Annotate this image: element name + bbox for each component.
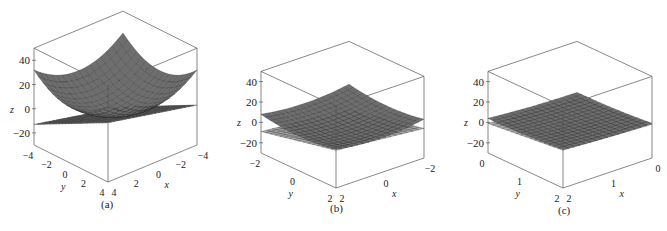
y-tick-label: −2 — [250, 158, 261, 169]
z-tick-label: 20 — [19, 79, 31, 91]
z-axis-label: z — [9, 104, 14, 115]
z-tick-label: 40 — [473, 76, 485, 88]
caption-c: (c) — [558, 204, 570, 216]
z-tick-label: 0 — [25, 103, 31, 115]
x-axis: 012x — [567, 163, 661, 204]
x-axis-label: x — [619, 188, 625, 199]
x-tick-label: 0 — [384, 178, 389, 189]
caption-a: (a) — [101, 198, 113, 210]
surfaces — [488, 92, 652, 150]
z-axis-label: z — [463, 117, 468, 128]
z-tick-label: 40 — [246, 76, 258, 88]
y-axis-label: y — [515, 188, 521, 199]
z-axis: 40200−20z — [463, 76, 490, 149]
panel-a: 40200−20z−4−2024y−4−2024x — [9, 11, 208, 198]
panel-c: 40200−20z012y012x — [463, 41, 661, 204]
x-tick-label: 4 — [112, 187, 117, 198]
y-tick-label: 0 — [480, 158, 485, 169]
z-axis: 40200−20z — [236, 76, 263, 149]
x-axis-label: x — [391, 188, 397, 199]
x-tick-label: 2 — [567, 193, 572, 204]
x-axis: −202x — [340, 163, 436, 204]
x-tick-label: −4 — [198, 150, 209, 161]
y-tick-label: 0 — [290, 176, 295, 187]
x-tick-label: 1 — [611, 178, 616, 189]
y-tick-label: −4 — [23, 150, 34, 161]
z-axis-label: z — [236, 117, 241, 128]
y-tick-label: −2 — [41, 159, 52, 170]
y-tick-label: 0 — [63, 169, 68, 180]
caption-b: (b) — [330, 202, 343, 214]
z-tick-label: 0 — [252, 116, 258, 128]
z-tick-label: −20 — [240, 137, 258, 149]
z-axis: 40200−20z — [9, 54, 36, 139]
panel-b: 40200−20z−202y−202x — [236, 41, 435, 204]
y-axis-label: y — [60, 181, 66, 192]
x-tick-label: −2 — [425, 163, 436, 174]
z-tick-label: 20 — [246, 96, 258, 108]
x-tick-label: 0 — [156, 169, 161, 180]
y-axis: −202y — [250, 158, 333, 204]
y-tick-label: 2 — [81, 178, 86, 189]
z-tick-label: 20 — [473, 96, 485, 108]
x-axis: −4−2024x — [112, 150, 209, 198]
y-axis-label: y — [288, 188, 294, 199]
surfaces — [261, 84, 424, 150]
z-tick-label: 40 — [19, 54, 31, 66]
z-tick-label: 0 — [479, 116, 485, 128]
x-tick-label: 2 — [134, 178, 139, 189]
surfaces — [34, 33, 197, 124]
figure-canvas: 40200−20z−4−2024y−4−2024x 40200−20z−202y… — [0, 0, 667, 231]
z-tick-label: −20 — [13, 127, 31, 139]
x-axis-label: x — [164, 179, 170, 190]
x-tick-label: 0 — [656, 163, 661, 174]
y-tick-label: 4 — [100, 187, 105, 198]
x-tick-label: −2 — [175, 159, 186, 170]
y-tick-label: 1 — [517, 176, 522, 187]
y-tick-label: 2 — [555, 193, 560, 204]
z-tick-label: −20 — [467, 137, 485, 149]
